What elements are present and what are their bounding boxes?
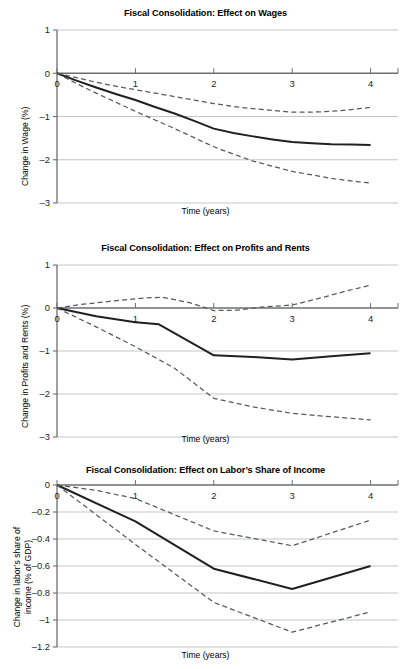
- y-tick-label: –0.2: [32, 506, 50, 517]
- y-tick-label: 1: [45, 259, 50, 270]
- y-tick-label: –0.8: [32, 587, 50, 598]
- x-tick-label: 4: [368, 78, 373, 89]
- x-tick-label: 4: [368, 490, 373, 501]
- x-tick-label: 4: [368, 313, 373, 324]
- chart-panel-labor-share: Fiscal Consolidation: Effect on Labor’s …: [0, 452, 411, 669]
- x-tick-label: 3: [290, 490, 295, 501]
- x-tick-label: 2: [211, 313, 216, 324]
- y-tick-label: 0: [45, 479, 50, 490]
- x-tick-label: 2: [211, 490, 216, 501]
- y-tick-label: 0: [45, 68, 50, 79]
- series-line-confidence-band: [57, 308, 371, 420]
- x-tick-label: 0: [54, 313, 59, 324]
- chart-panel-profits-rents: Fiscal Consolidation: Effect on Profits …: [0, 228, 411, 452]
- y-tick-label: –1: [40, 614, 50, 625]
- y-tick-label: –2: [40, 154, 50, 165]
- x-tick-label: 3: [290, 313, 295, 324]
- x-axis-label: Time (years): [0, 206, 411, 216]
- y-tick-label: –2: [40, 388, 50, 399]
- y-tick-label: –1: [40, 345, 50, 356]
- y-tick-label: –1: [40, 111, 50, 122]
- x-axis-label: Time (years): [0, 650, 411, 660]
- x-tick-label: 2: [211, 78, 216, 89]
- plot-area: 10–1–2–301234: [0, 228, 411, 452]
- x-tick-label: 1: [133, 78, 138, 89]
- plot-area: 0–0.2–0.4–0.6–0.8–1–1.201234: [0, 452, 411, 669]
- figure-container: Fiscal Consolidation: Effect on Wages Ch…: [0, 0, 411, 669]
- x-axis-label: Time (years): [0, 434, 411, 444]
- y-tick-label: –0.4: [32, 533, 50, 544]
- y-tick-label: 1: [45, 24, 50, 35]
- plot-area: 10–1–2–301234: [0, 0, 411, 228]
- y-tick-label: 0: [45, 302, 50, 313]
- chart-panel-wages: Fiscal Consolidation: Effect on Wages Ch…: [0, 0, 411, 228]
- x-tick-label: 3: [290, 78, 295, 89]
- x-tick-label: 1: [133, 490, 138, 501]
- x-tick-label: 0: [54, 78, 59, 89]
- y-tick-label: –0.6: [32, 560, 50, 571]
- x-tick-label: 0: [54, 490, 59, 501]
